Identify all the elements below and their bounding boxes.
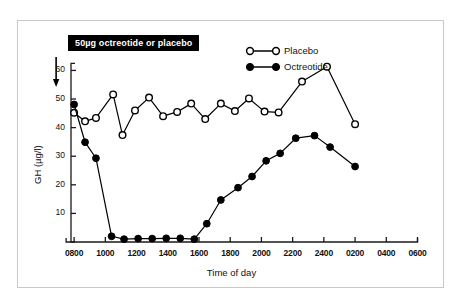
- y-axis-line: [71, 63, 75, 242]
- data-point-placebo: [174, 109, 181, 116]
- x-axis-title: Time of day: [18, 267, 445, 278]
- legend-marker-0: [273, 48, 280, 55]
- y-tick-label: 20: [37, 179, 65, 189]
- data-point-octreotide: [108, 233, 115, 240]
- x-tick-label: 2000: [245, 248, 277, 258]
- legend-label-octreotide: Octreotide: [284, 61, 328, 72]
- x-tick-label: 0800: [58, 248, 90, 258]
- x-axis-line: [66, 238, 417, 242]
- legend-group: [246, 48, 279, 71]
- x-tick-label: 1800: [214, 248, 246, 258]
- data-point-octreotide: [263, 157, 270, 164]
- data-point-placebo: [218, 100, 225, 107]
- data-point-placebo: [261, 108, 268, 115]
- data-point-octreotide: [203, 220, 210, 227]
- data-point-octreotide: [93, 155, 100, 162]
- x-tick-label: 1600: [183, 248, 215, 258]
- data-series-group: [71, 63, 359, 242]
- data-point-placebo: [202, 116, 209, 123]
- data-point-octreotide: [71, 101, 78, 108]
- legend-marker-1: [272, 63, 279, 70]
- y-tick-label: 50: [37, 93, 65, 103]
- y-tick-label: 10: [37, 207, 65, 217]
- series-line-placebo: [74, 67, 355, 135]
- data-point-octreotide: [327, 144, 334, 151]
- x-tick-label: 1200: [121, 248, 153, 258]
- data-point-octreotide: [277, 150, 284, 157]
- data-point-placebo: [275, 109, 282, 116]
- x-tick-label: 0600: [402, 248, 434, 258]
- dose-arrow-head: [53, 79, 59, 87]
- data-point-octreotide: [235, 184, 242, 191]
- data-point-octreotide: [135, 235, 142, 242]
- x-tick-label: 0200: [339, 248, 371, 258]
- x-tick-label: 0400: [370, 248, 402, 258]
- data-point-placebo: [82, 118, 89, 125]
- data-point-octreotide: [352, 163, 359, 170]
- x-tick-label: 1000: [89, 248, 121, 258]
- data-point-placebo: [246, 95, 253, 102]
- dose-annotation-box: 50µg octreotide or placebo: [68, 35, 199, 51]
- data-point-placebo: [119, 132, 126, 139]
- data-point-octreotide: [149, 235, 156, 242]
- legend-label-placebo: Placebo: [284, 45, 318, 56]
- x-tick-label: 1400: [152, 248, 184, 258]
- data-point-octreotide: [311, 132, 318, 139]
- axes-group: [66, 63, 417, 242]
- data-point-placebo: [299, 78, 306, 85]
- data-point-placebo: [160, 113, 167, 120]
- data-point-octreotide: [191, 236, 198, 243]
- y-tick-label: 30: [37, 150, 65, 160]
- figure-frame: 50µg octreotide or placebo Placebo Octre…: [17, 20, 444, 288]
- data-point-octreotide: [82, 139, 89, 146]
- data-point-placebo: [188, 100, 195, 107]
- data-point-placebo: [132, 107, 139, 114]
- series-line-octreotide: [74, 104, 355, 239]
- x-tick-label: 2400: [308, 248, 340, 258]
- data-point-placebo: [352, 121, 359, 128]
- data-point-placebo: [93, 115, 100, 122]
- data-point-octreotide: [249, 173, 256, 180]
- legend-marker-1: [246, 63, 253, 70]
- data-point-placebo: [232, 108, 239, 115]
- data-point-placebo: [110, 91, 117, 98]
- x-tick-label: 2200: [277, 248, 309, 258]
- data-point-octreotide: [163, 235, 170, 242]
- y-tick-label: 60: [37, 64, 65, 74]
- legend-marker-0: [247, 48, 254, 55]
- y-tick-label: 40: [37, 122, 65, 132]
- data-point-octreotide: [292, 135, 299, 142]
- data-point-octreotide: [217, 197, 224, 204]
- data-point-placebo: [146, 94, 153, 101]
- data-point-octreotide: [177, 235, 184, 242]
- data-point-octreotide: [121, 236, 128, 243]
